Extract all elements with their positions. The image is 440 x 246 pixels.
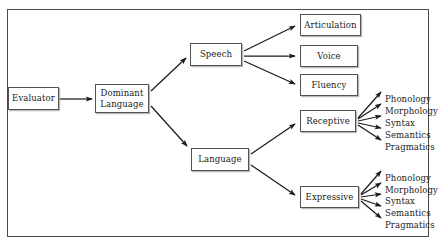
- node-language-label: Language: [195, 154, 244, 165]
- edge-expressive-semantics: [361, 199, 381, 206]
- node-dominant-language[interactable]: Dominant Language: [95, 84, 149, 113]
- leaf-receptive-semantics: Semantics: [385, 130, 431, 140]
- node-dominant-language-label-line1: Dominant: [98, 88, 147, 99]
- leaf-expressive-morphology: Morphology: [385, 185, 438, 195]
- edge-speech-articulation: [244, 26, 295, 51]
- leaf-expressive-phonology: Phonology: [385, 173, 431, 183]
- node-articulation-label: Articulation: [301, 20, 359, 31]
- node-dominant-language-label-line2: Language: [97, 99, 146, 110]
- node-receptive-label: Receptive: [303, 116, 353, 127]
- node-speech-label: Speech: [197, 49, 235, 60]
- node-evaluator-label: Evaluator: [9, 93, 58, 104]
- leaf-receptive-phonology: Phonology: [385, 94, 431, 104]
- leaf-expressive-pragmatics: Pragmatics: [385, 220, 435, 230]
- edge-expressive-pragmatics: [361, 201, 381, 218]
- edge-dominant-language: [151, 106, 187, 146]
- node-voice-label: Voice: [314, 51, 344, 62]
- leaf-receptive-morphology: Morphology: [385, 106, 438, 116]
- edge-dominant-speech: [151, 58, 186, 91]
- node-fluency-label: Fluency: [309, 80, 350, 91]
- diagram-page: Evaluator Dominant Language Speech Langu…: [0, 0, 440, 246]
- edge-language-expressive: [251, 165, 295, 195]
- edge-expressive-syntax: [361, 194, 381, 197]
- edge-expressive-morphology: [361, 183, 381, 195]
- node-evaluator[interactable]: Evaluator: [8, 87, 59, 110]
- leaf-expressive-syntax: Syntax: [385, 196, 415, 206]
- node-articulation[interactable]: Articulation: [300, 14, 361, 36]
- node-voice[interactable]: Voice: [300, 45, 358, 67]
- node-fluency[interactable]: Fluency: [300, 74, 358, 96]
- node-expressive[interactable]: Expressive: [300, 186, 359, 208]
- diagram-arrows: [0, 0, 440, 246]
- edge-language-receptive: [251, 124, 295, 154]
- node-language[interactable]: Language: [191, 148, 249, 171]
- node-speech[interactable]: Speech: [190, 43, 242, 66]
- leaf-receptive-syntax: Syntax: [385, 118, 415, 128]
- edge-speech-fluency: [244, 61, 295, 84]
- edge-receptive-phonology: [358, 92, 381, 118]
- leaf-receptive-pragmatics: Pragmatics: [385, 142, 435, 152]
- edge-expressive-phonology: [361, 171, 381, 194]
- leaf-expressive-semantics: Semantics: [385, 208, 431, 218]
- node-expressive-label: Expressive: [303, 192, 357, 203]
- node-receptive[interactable]: Receptive: [300, 110, 356, 132]
